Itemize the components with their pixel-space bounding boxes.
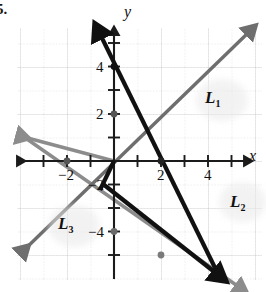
line-label-L3-subscript: 3 [68, 224, 73, 235]
x-tick-label-2: 2 [157, 168, 165, 183]
line-label-L2-letter: L [230, 192, 240, 211]
y-tick-label--4: −4 [88, 225, 104, 240]
grid [17, 28, 262, 280]
x-tick-label-4: 4 [204, 168, 212, 183]
y-tick-label--2: −2 [88, 178, 104, 193]
y-tick-label-4: 4 [96, 60, 104, 75]
y-tick-label-2: 2 [96, 107, 104, 122]
line-label-L1-letter: L [205, 88, 215, 107]
y-axis-label: y [124, 4, 131, 20]
line-label-L3-letter: L [58, 214, 68, 233]
x-tick-label--2: −2 [58, 168, 74, 183]
label-haze-1 [196, 79, 248, 121]
coordinate-plane [0, 0, 266, 292]
line-label-L2: L2 [230, 193, 245, 213]
line-label-L3: L3 [58, 215, 73, 235]
x-axis-label: x [249, 148, 256, 164]
line-label-L1-subscript: 1 [215, 98, 220, 109]
figure-graph: 5. [0, 0, 266, 292]
line-label-L2-subscript: 2 [240, 202, 245, 213]
line-label-L1: L1 [205, 89, 220, 109]
